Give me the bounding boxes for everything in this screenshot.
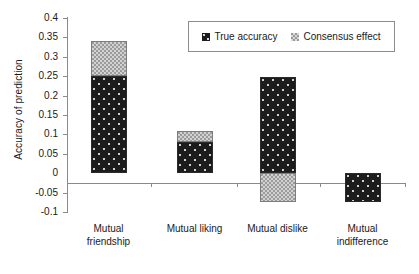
y-tick-label: -0.05 <box>18 188 58 198</box>
bar-segment-consensus-effect <box>91 41 127 76</box>
y-tick-mark <box>63 76 68 77</box>
chart-legend: True accuracyConsensus effect <box>188 21 395 52</box>
legend-item-label: True accuracy <box>214 31 277 42</box>
dark-speckled-swatch-icon <box>202 33 210 41</box>
y-tick-mark <box>63 212 68 213</box>
x-category-label-line: indifference <box>308 235 418 248</box>
x-category-label-line: friendship <box>54 235 164 248</box>
y-tick-mark <box>63 134 68 135</box>
stacked-bar-chart: Accuracy of prediction 0.40.350.30.250.2… <box>0 0 419 274</box>
y-tick-mark <box>63 18 68 19</box>
y-tick-label: 0.25 <box>18 71 58 81</box>
y-tick-mark <box>63 96 68 97</box>
y-tick-label: 0.2 <box>18 91 58 101</box>
x-category-label: Mutualindifference <box>308 222 418 248</box>
bar-segment-true-accuracy <box>260 77 296 173</box>
y-tick-mark <box>63 115 68 116</box>
y-tick-mark <box>63 37 68 38</box>
x-tick-mark <box>237 183 238 187</box>
legend-item-label: Consensus effect <box>303 31 380 42</box>
y-tick-mark <box>63 57 68 58</box>
legend-item: Consensus effect <box>291 31 380 42</box>
bar-segment-true-accuracy <box>345 173 381 201</box>
bar-segment-consensus-effect <box>177 131 213 143</box>
y-tick-label: 0.1 <box>18 129 58 139</box>
y-tick-label: 0.35 <box>18 32 58 42</box>
y-tick-label: 0 <box>18 168 58 178</box>
bar-segment-true-accuracy <box>91 76 127 173</box>
y-tick-label: 0.15 <box>18 110 58 120</box>
y-tick-mark <box>63 193 68 194</box>
legend-item: True accuracy <box>202 31 277 42</box>
y-tick-label: 0.05 <box>18 149 58 159</box>
x-category-label-line: Mutual <box>308 222 418 235</box>
y-tick-label: 0.3 <box>18 52 58 62</box>
y-tick-mark <box>63 154 68 155</box>
bar-segment-true-accuracy <box>177 142 213 173</box>
x-tick-mark <box>405 183 406 187</box>
x-tick-mark <box>320 183 321 187</box>
y-tick-label: -0.1 <box>18 207 58 217</box>
light-checkered-swatch-icon <box>291 33 299 41</box>
x-tick-mark <box>151 183 152 187</box>
bar-segment-consensus-effect <box>260 173 296 201</box>
y-tick-label: 0.4 <box>18 13 58 23</box>
